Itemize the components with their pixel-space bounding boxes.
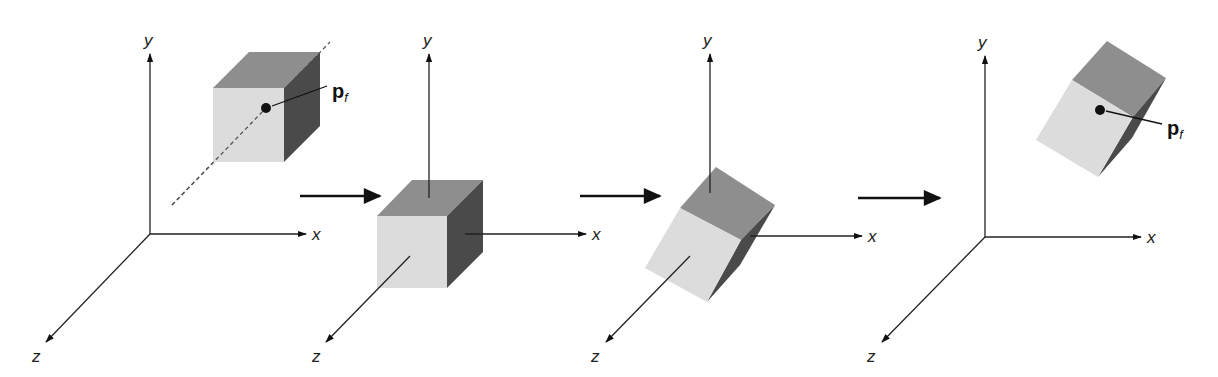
y-label: y [143,31,154,50]
z-axis [46,234,150,342]
panel-1: y x z pf [31,31,349,366]
z-axis [882,237,985,342]
z-label: z [31,347,41,366]
cube-rotation-diagram: y x z pf y x z [0,0,1218,377]
cube-front-face [377,216,447,288]
x-label: x [867,227,877,246]
fixed-point-dot [261,103,271,113]
cube-front-face [213,88,284,162]
panel-3: y x z [590,31,877,366]
x-label: x [1146,228,1156,247]
x-label: x [311,225,321,244]
panel-4: y x z pf [866,33,1184,366]
y-label: y [977,33,988,52]
z-axis [326,256,410,342]
panel-2: y x z [311,31,601,366]
x-label: x [591,225,601,244]
z-label: z [311,347,321,366]
fixed-point-label: pf [332,80,349,105]
z-label: z [866,347,876,366]
fixed-point-label: pf [1167,117,1184,142]
y-label: y [702,31,713,50]
fixed-point-dot [1095,105,1105,115]
y-label: y [422,31,433,50]
z-label: z [590,347,600,366]
